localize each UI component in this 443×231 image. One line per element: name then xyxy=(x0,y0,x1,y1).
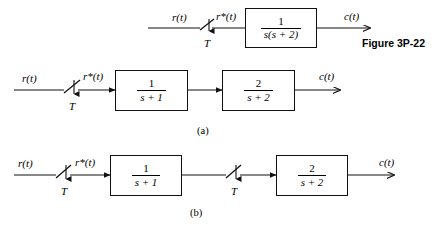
denominator-b2: s + 2 xyxy=(298,177,327,188)
numerator-a2: 2 xyxy=(244,78,273,89)
part-label-a: (a) xyxy=(197,126,209,137)
transfer-function-block-b1: 1 s + 1 xyxy=(110,155,182,196)
output-label-b: c(t) xyxy=(379,157,394,168)
sampler-period-label-b1: T xyxy=(61,186,67,197)
figure-3p-22: 1 s(s + 2) r(t) r*(t) T c(t) Figure 3P-2… xyxy=(0,0,443,231)
transfer-function-block-b2: 2 s + 2 xyxy=(276,155,348,196)
sampled-input-label-a: r*(t) xyxy=(83,71,103,82)
output-label-a: c(t) xyxy=(319,71,334,82)
output-label-top: c(t) xyxy=(344,11,359,22)
sampler-period-label-a: T xyxy=(69,101,75,112)
transfer-function-block-top: 1 s(s + 2) xyxy=(245,8,317,48)
sampler-period-label-b2: T xyxy=(231,186,237,197)
sampled-input-label-top: r*(t) xyxy=(216,11,236,22)
transfer-function-a2: 2 s + 2 xyxy=(244,78,273,103)
transfer-function-b1: 1 s + 1 xyxy=(132,163,161,188)
input-label-b: r(t) xyxy=(18,158,33,169)
sampled-input-label-b: r*(t) xyxy=(75,157,95,168)
numerator-b2: 2 xyxy=(298,163,327,174)
denominator-a1: s + 1 xyxy=(137,92,166,103)
transfer-function-b2: 2 s + 2 xyxy=(298,163,327,188)
transfer-function-a1: 1 s + 1 xyxy=(137,78,166,103)
denominator-a2: s + 2 xyxy=(244,92,273,103)
numerator-a1: 1 xyxy=(137,78,166,89)
denominator-top: s(s + 2) xyxy=(261,29,301,40)
transfer-function-top: 1 s(s + 2) xyxy=(261,16,301,41)
input-label-top: r(t) xyxy=(172,12,187,23)
numerator-b1: 1 xyxy=(132,163,161,174)
part-label-b: (b) xyxy=(190,208,202,219)
sampler-period-label-top: T xyxy=(204,38,210,49)
input-label-a: r(t) xyxy=(22,73,37,84)
denominator-b1: s + 1 xyxy=(132,177,161,188)
transfer-function-block-a2: 2 s + 2 xyxy=(222,70,295,111)
numerator-top: 1 xyxy=(261,16,301,27)
figure-caption: Figure 3P-22 xyxy=(362,38,425,49)
transfer-function-block-a1: 1 s + 1 xyxy=(115,70,188,111)
